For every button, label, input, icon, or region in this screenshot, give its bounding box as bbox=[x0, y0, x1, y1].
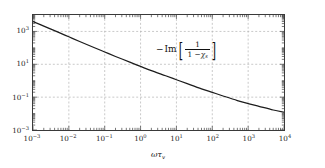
x-tick-label: 103 bbox=[243, 135, 255, 142]
x-tick-label: 104 bbox=[279, 135, 291, 142]
annotation-fraction: 1 1 −χs bbox=[185, 41, 209, 58]
y-tick-label: 101 bbox=[4, 61, 29, 68]
annotation-denominator: 1 −χs bbox=[185, 51, 209, 59]
annotation-operator: Im bbox=[165, 45, 177, 54]
y-tick-label: 10−1 bbox=[4, 94, 29, 101]
x-tick-label: 102 bbox=[206, 135, 218, 142]
x-axis-tau-subscript: v bbox=[162, 154, 165, 160]
annotation-bracket-open: [ bbox=[179, 43, 183, 57]
x-tick-label: 10−3 bbox=[24, 135, 41, 142]
denominator-subscript: s bbox=[205, 53, 208, 59]
annotation-bracket-close: ] bbox=[212, 43, 216, 57]
y-tick-label: 103 bbox=[4, 27, 29, 34]
y-tick-label: 10−3 bbox=[4, 127, 29, 134]
annotation-numerator: 1 bbox=[193, 41, 202, 49]
x-tick-label: 100 bbox=[134, 135, 146, 142]
curve-annotation: − Im [ 1 1 −χs ] bbox=[156, 41, 218, 58]
data-curve bbox=[33, 15, 284, 130]
denominator-lead: 1 − bbox=[187, 50, 200, 59]
x-tick-label: 10−2 bbox=[60, 135, 77, 142]
log-log-chart-figure: − Im [ 1 1 −χs ] 10−310−210−110010110210… bbox=[0, 0, 325, 168]
annotation-minus-sign: − bbox=[156, 45, 164, 54]
x-axis-title: ωτv bbox=[151, 150, 165, 159]
x-tick-label: 101 bbox=[170, 135, 182, 142]
x-tick-label: 10−1 bbox=[96, 135, 113, 142]
plot-area bbox=[32, 14, 285, 131]
